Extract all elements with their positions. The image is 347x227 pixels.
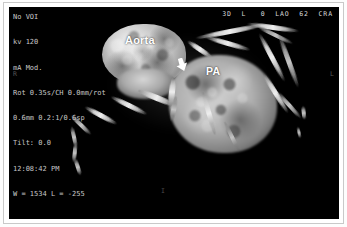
param-line-ma: mA Mod. [13,64,106,72]
param-line-tilt: Tilt: 0.0 [13,139,106,147]
arrow-marker-icon [175,58,188,72]
param-line-window-level: W = 1534 L = -255 [13,190,106,198]
param-line-slice: 0.6mm 0.2:1/0.6sp [13,114,106,122]
param-line-no-voi: No VOI [13,13,106,21]
view-orientation-header: 3D L 0 LAO 62 CRA [222,10,333,18]
param-line-kv: kv 120 [13,38,106,46]
acquisition-parameters-overlay: No VOI kv 120 mA Mod. Rot 0.35s/CH 0.0mm… [13,7,106,215]
orientation-marker-inferior: I [161,187,165,195]
vessel-branch-far-right [302,106,307,120]
param-line-timestamp: 12:08:42 PM [13,165,106,173]
ct-viewer: 3D L 0 LAO 62 CRA No VOI kv 120 mA Mod. … [0,0,347,227]
param-line-rotation: Rot 0.35s/CH 0.0mm/rot [13,89,106,97]
annotation-pulmonary-artery: PA [206,65,220,77]
orientation-marker-right: R [13,70,17,78]
annotation-aorta: Aorta [125,34,155,46]
orientation-marker-left: L [330,70,334,78]
ct-image-canvas[interactable]: 3D L 0 LAO 62 CRA No VOI kv 120 mA Mod. … [9,7,339,219]
